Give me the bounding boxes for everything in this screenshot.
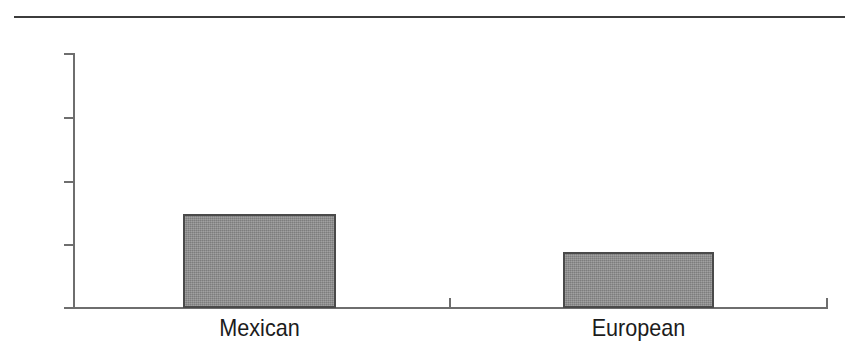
y-axis-tick-3.25 <box>64 244 73 246</box>
y-axis-tick-3.75 <box>64 117 73 119</box>
bar-mexican <box>183 214 336 308</box>
y-axis-tick-3.50 <box>64 181 73 183</box>
x-axis-tick-end <box>826 298 828 308</box>
y-axis-tick-3.00 <box>64 307 73 309</box>
x-axis-tick-mid <box>449 298 451 308</box>
x-axis-label-mexican: Mexican <box>191 314 329 342</box>
y-axis-tick-4.00 <box>64 53 73 55</box>
top-horizontal-rule <box>14 16 845 18</box>
x-axis-label-european: European <box>571 314 707 342</box>
bar-european <box>563 252 714 308</box>
bar-chart-figure: 4.00 3.75 3.50 3.25 3.00 Mexican Europea… <box>0 0 852 363</box>
y-axis-line <box>73 53 75 309</box>
